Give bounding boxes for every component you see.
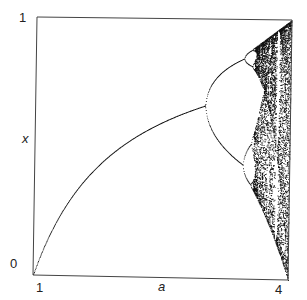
x-axis-label: a [158,280,165,293]
plot-frame [33,17,292,280]
y-axis-label: x [22,132,29,145]
y-tick-bottom: 0 [10,257,17,270]
bifurcation-plot [0,0,307,300]
x-tick-right: 4 [275,283,282,296]
bifurcation-points [33,20,292,281]
x-tick-left: 1 [36,281,43,294]
y-tick-top: 1 [19,11,26,24]
